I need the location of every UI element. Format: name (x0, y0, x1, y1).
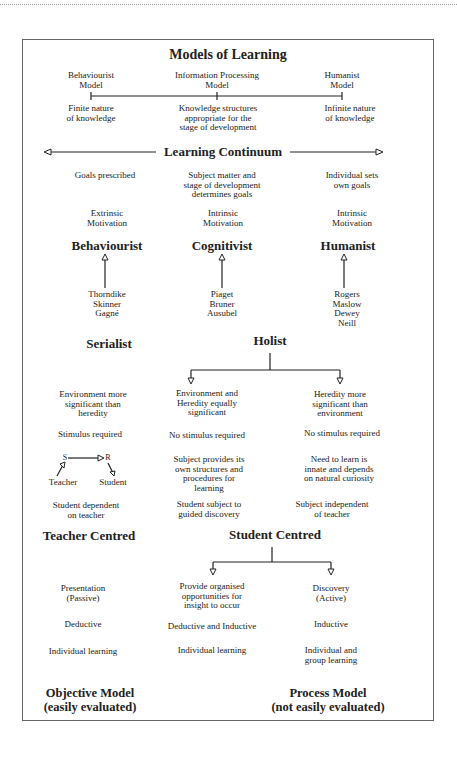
presentation-passive: Presentation (Passive) (61, 584, 106, 603)
objective-model-subtitle: (easily evaluated) (44, 700, 137, 714)
holist-label: Holist (253, 333, 286, 349)
reasoning-inductive: Inductive (314, 620, 348, 630)
grouping-discovery: Individual and group learning (305, 646, 358, 665)
environment-holist-equal: Environment and Heredity equally signifi… (176, 389, 238, 418)
objective-model-title: Objective Model (46, 686, 135, 700)
environment-serialist: Environment more significant than heredi… (59, 390, 127, 419)
finite-knowledge-note: Finite nature of knowledge (66, 104, 115, 123)
learning-continuum-label: Learning Continuum (164, 144, 282, 160)
sr-teacher-label: Teacher (49, 478, 77, 488)
structures-holist-middle: Subject provides its own structures and … (174, 455, 245, 493)
motivation-cognitivist: Intrinsic Motivation (203, 209, 243, 228)
theorists-behaviourist: Thorndike Skinner Gagné (88, 290, 126, 319)
process-model-subtitle: (not easily evaluated) (271, 700, 384, 714)
motivation-humanist: Intrinsic Motivation (332, 209, 372, 228)
process-model-title: Process Model (289, 686, 366, 700)
stimulus-holist-middle: No stimulus required (169, 431, 245, 441)
student-centred-label: Student Centred (229, 527, 321, 543)
stimulus-serialist: Stimulus required (58, 430, 122, 440)
motivation-behaviourist: Extrinsic Motivation (87, 209, 127, 228)
goals-humanist: Individual sets own goals (326, 171, 379, 190)
presentation-discovery: Discovery (Active) (313, 584, 350, 603)
sr-student-label: Student (99, 478, 127, 488)
dependence-teacher: Student dependent on teacher (53, 501, 120, 520)
theorists-humanist: Rogers Maslow Dewey Neill (333, 290, 362, 328)
infinite-knowledge-note: Infinite nature of knowledge (324, 104, 375, 123)
presentation-organised: Provide organised opportunities for insi… (179, 582, 244, 611)
stimulus-holist-right: No stimulus required (304, 429, 380, 439)
behaviourist-model-label: Behaviourist Model (68, 71, 114, 90)
school-behaviourist: Behaviourist (72, 238, 143, 254)
goals-behaviourist: Goals prescribed (75, 171, 136, 181)
sr-stimulus-letter: S (63, 453, 67, 463)
reasoning-deductive: Deductive (65, 620, 102, 630)
grouping-teacher: Individual learning (49, 647, 118, 657)
heredity-holist: Heredity more significant than environme… (312, 390, 368, 419)
serialist-label: Serialist (86, 336, 132, 352)
knowledge-structures-note: Knowledge structures appropriate for the… (179, 104, 258, 133)
school-humanist: Humanist (321, 238, 376, 254)
goals-cognitivist: Subject matter and stage of development … (184, 171, 261, 200)
reasoning-both: Deductive and Inductive (168, 622, 256, 632)
school-cognitivist: Cognitivist (192, 238, 253, 254)
humanist-model-label: Humanist Model (325, 71, 360, 90)
diagram-title: Models of Learning (169, 47, 286, 63)
dependence-guided: Student subject to guided discovery (177, 500, 242, 519)
dependence-independent: Subject independent of teacher (295, 500, 368, 519)
info-processing-model-label: Information Processing Model (175, 71, 259, 90)
teacher-centred-label: Teacher Centred (43, 528, 136, 544)
structures-holist-right: Need to learn is innate and depends on n… (304, 455, 374, 484)
grouping-middle: Individual learning (178, 646, 247, 656)
sr-response-letter: R (105, 453, 110, 463)
theorists-cognitivist: Piaget Bruner Ausubel (207, 290, 237, 319)
